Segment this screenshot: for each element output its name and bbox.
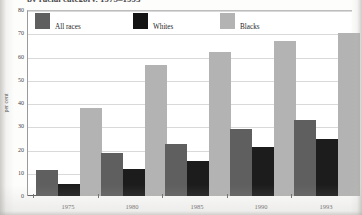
y-tick-label-30: 30	[18, 123, 24, 129]
bar-1975-blacks	[80, 108, 102, 196]
gridline-40	[28, 104, 352, 105]
scanned-figure-page: by racial category, 1975–1993 80 70 60 5…	[0, 0, 362, 215]
x-tick-label-1990: 1990	[255, 203, 268, 210]
legend-swatch-all-races-icon	[35, 13, 50, 29]
x-tick-label-1980: 1980	[126, 203, 139, 210]
y-tick-label-20: 20	[18, 147, 24, 153]
bar-1985-whites	[187, 161, 209, 196]
bar-1990-whites	[252, 147, 274, 196]
legend-item-whites: Whites	[133, 13, 173, 31]
legend-item-all-races: All races	[35, 13, 81, 31]
bar-1980-whites	[123, 169, 145, 196]
x-axis: 1975 1980 1985 1990 1993	[0, 196, 362, 215]
plot-area: All races Whites Blacks	[27, 10, 352, 196]
bar-1993-all-races	[294, 120, 316, 196]
bar-1975-all-races	[36, 170, 58, 196]
x-tick-label-1993: 1993	[320, 203, 333, 210]
plot-inner: All races Whites Blacks	[28, 11, 352, 196]
bar-1993-whites	[316, 139, 338, 196]
legend-swatch-whites-icon	[133, 13, 148, 29]
figure-title-clipped: by racial category, 1975–1993	[27, 0, 147, 2]
legend-swatch-blacks-icon	[220, 13, 235, 29]
figure-title-text: by racial category, 1975–1993	[27, 0, 147, 2]
legend: All races Whites Blacks	[28, 11, 352, 45]
gridline-50	[28, 81, 352, 82]
y-tick-label-70: 70	[18, 30, 24, 36]
bar-1993-blacks	[338, 33, 360, 196]
bar-1990-blacks	[274, 41, 296, 196]
legend-label-whites: Whites	[153, 23, 173, 31]
y-tick-label-60: 60	[18, 54, 24, 60]
x-tick-label-1975: 1975	[62, 203, 75, 210]
y-tick-label-10: 10	[18, 170, 24, 176]
y-tick-label-80: 80	[18, 7, 24, 13]
y-tick-label-50: 50	[18, 77, 24, 83]
bar-1980-all-races	[101, 153, 123, 196]
gridline-60	[28, 58, 352, 59]
x-tick-label-1985: 1985	[191, 203, 204, 210]
legend-item-blacks: Blacks	[220, 13, 260, 31]
legend-label-blacks: Blacks	[240, 23, 260, 31]
bar-1990-all-races	[230, 129, 252, 196]
y-axis-title: per cent	[3, 83, 9, 123]
bar-1980-blacks	[145, 65, 167, 196]
y-tick-label-40: 40	[18, 100, 24, 106]
bar-1985-blacks	[209, 52, 231, 196]
legend-label-all-races: All races	[55, 23, 81, 31]
bar-1985-all-races	[165, 144, 187, 196]
bar-1975-whites	[58, 184, 80, 196]
y-axis: 80 70 60 50 40 30 20 10 0 per cent	[0, 0, 27, 215]
